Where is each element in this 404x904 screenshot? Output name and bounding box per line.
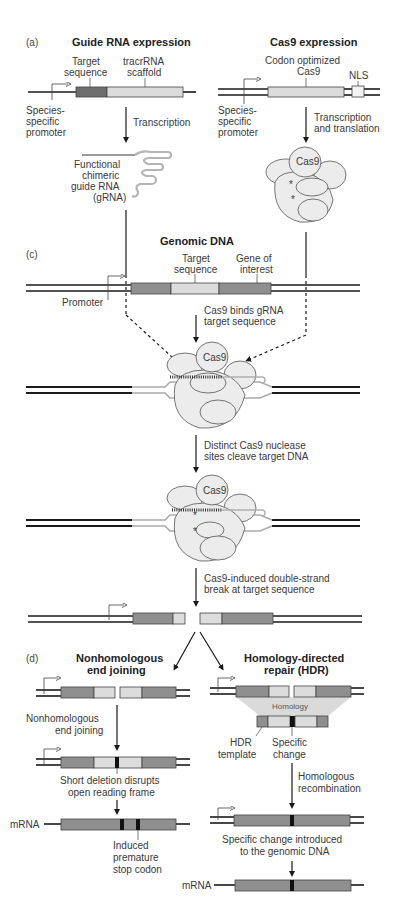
- promoter-arrow-icon: [218, 678, 232, 692]
- cas9-label: Cas9: [203, 485, 227, 496]
- cas9-expression-title: Cas9 expression: [270, 36, 358, 48]
- tracrrna-scaffold-segment: [107, 87, 183, 97]
- step-label: sites cleave target DNA: [204, 451, 309, 462]
- double-strand-break-dna: [28, 605, 362, 624]
- stop-codon-label: Induced: [113, 840, 149, 851]
- promoter-label: Species-: [26, 105, 65, 116]
- grna-label: chimeric: [82, 170, 119, 181]
- target-label: sequence: [174, 264, 218, 275]
- target-label: sequence: [64, 67, 108, 78]
- nls-label: NLS: [349, 70, 369, 81]
- promoter-label: specific: [26, 116, 59, 127]
- panel-a-label: (a): [26, 37, 38, 48]
- nuclease-site-marker: *: [289, 179, 293, 190]
- result-label: open reading frame: [68, 787, 155, 798]
- mrna-label: mRNA: [10, 819, 40, 830]
- panel-c-label: (c): [26, 249, 38, 260]
- result-label: to the genomic DNA: [240, 846, 330, 857]
- hdr-branch-arrow: [200, 632, 222, 668]
- cas9-bound-complex: Cas9: [26, 342, 360, 428]
- nuclease-site-marker: *: [193, 526, 197, 537]
- target-label: Target: [182, 253, 210, 264]
- guide-rna-title: Guide RNA expression: [72, 36, 191, 48]
- mrna-label: mRNA: [182, 880, 212, 891]
- step-label: Homologous: [298, 771, 354, 782]
- grna-label: (gRNA): [93, 192, 126, 203]
- cas9-gene-label: Codon optimized: [265, 55, 340, 66]
- nuclease-site-marker: *: [193, 510, 197, 521]
- cas9-gene-segment: [268, 87, 344, 97]
- result-label: Specific change introduced: [222, 834, 342, 845]
- panel-c-genomic-dna: (c) Genomic DNA Target sequence Gene of …: [26, 210, 362, 668]
- nhej-title: end joining: [87, 664, 146, 676]
- stop-codon-marker: [136, 819, 140, 830]
- cas9-protein-icon: Cas9 * *: [266, 147, 346, 222]
- nuclease-site-marker: *: [291, 194, 295, 205]
- panel-d-hdr: Homology-directed repair (HDR) Homology …: [182, 652, 364, 891]
- panel-d-nhej: (d) Nonhomologous end joining Nonhomolog…: [10, 652, 190, 875]
- promoter-label: specific: [218, 116, 251, 127]
- result-label: Short deletion disrupts: [60, 775, 160, 786]
- step-label: break at target sequence: [204, 584, 315, 595]
- promoter-label: Species-: [218, 105, 257, 116]
- gene-label: Gene of: [236, 253, 272, 264]
- hdr-title: repair (HDR): [264, 664, 329, 676]
- homology-label: Homology: [272, 702, 308, 711]
- mutation-marker: [120, 819, 124, 830]
- promoter-arrow-icon: [44, 678, 58, 694]
- panel-d-label: (d): [26, 653, 38, 664]
- specific-change-marker: [290, 815, 294, 826]
- specific-change-marker: [290, 880, 294, 891]
- specific-change-marker: [290, 716, 295, 727]
- cas9-label: Cas9: [296, 156, 320, 167]
- change-label: change: [273, 749, 306, 760]
- template-label: HDR: [230, 737, 252, 748]
- hdr-template: [257, 716, 268, 727]
- promoter-label: promoter: [26, 127, 67, 138]
- stop-codon-label: stop codon: [113, 864, 162, 875]
- step-label: Cas9 binds gRNA: [204, 305, 284, 316]
- step-label: Transcription: [314, 112, 371, 123]
- cas9-gene-label: Cas9: [297, 66, 321, 77]
- nhej-title: Nonhomologous: [76, 652, 163, 664]
- gene-segment: [131, 283, 171, 294]
- promoter-arrow-icon: [109, 605, 124, 620]
- grna-label: Functional: [74, 159, 120, 170]
- panel-a-guide-rna: (a) Guide RNA expression Target sequence…: [26, 36, 196, 203]
- panel-a-cas9: Cas9 expression Codon optimized Cas9 NLS…: [218, 36, 380, 222]
- crispr-cas9-diagram: (a) Guide RNA expression Target sequence…: [0, 0, 404, 904]
- step-label: Cas9-induced double-strand: [204, 573, 330, 584]
- cas9-label: Cas9: [203, 352, 227, 363]
- stop-codon-label: premature: [113, 852, 159, 863]
- scaffold-label: tracrRNA: [123, 56, 164, 67]
- step-label: Nonhomologous: [26, 713, 99, 724]
- nhej-branch-arrow: [175, 632, 195, 668]
- step-label: Distinct Cas9 nuclease: [204, 440, 306, 451]
- target-sequence-segment: [171, 283, 219, 294]
- nls-segment: [352, 86, 364, 97]
- deletion-marker: [115, 757, 119, 768]
- promoter-arrow-icon: [244, 79, 258, 104]
- scaffold-label: scaffold: [127, 67, 161, 78]
- promoter-arrow-icon: [44, 749, 58, 764]
- target-sequence-segment: [76, 87, 107, 97]
- template-label: template: [218, 749, 257, 760]
- target-label: Target: [72, 56, 100, 67]
- promoter-arrow-icon: [218, 808, 232, 820]
- gene-of-interest-segment: [219, 283, 271, 294]
- transcription-label: Transcription: [133, 117, 190, 128]
- genomic-dna-title: Genomic DNA: [160, 235, 234, 247]
- promoter-label: promoter: [218, 127, 259, 138]
- step-label: recombination: [298, 783, 361, 794]
- cas9-cleaving-complex: Cas9 * *: [26, 475, 360, 561]
- promoter-label: Promoter: [62, 297, 104, 308]
- step-label: target sequence: [204, 316, 276, 327]
- grna-label: guide RNA: [71, 181, 120, 192]
- step-label: end joining: [55, 725, 103, 736]
- step-label: and translation: [314, 123, 380, 134]
- change-label: Specific: [272, 737, 307, 748]
- gene-label: interest: [240, 264, 273, 275]
- mrna-transcript: [61, 819, 176, 830]
- promoter-arrow-icon: [108, 276, 122, 300]
- hdr-title: Homology-directed: [244, 652, 344, 664]
